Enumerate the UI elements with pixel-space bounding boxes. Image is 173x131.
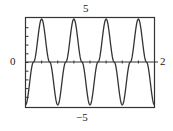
plot-area — [0, 0, 173, 131]
